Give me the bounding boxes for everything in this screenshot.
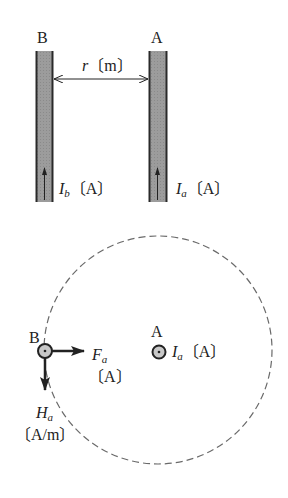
conductor-b-out-of-page-icon: [38, 344, 52, 358]
conductor-a: [149, 51, 167, 202]
conductor-b: [36, 51, 53, 202]
point-b-label: B: [29, 329, 40, 346]
magnetic-field-figure: A Ia〔A〕 Fa 〔A〕 Ha 〔A/m〕 B: [15, 236, 272, 464]
conductor-a-out-of-page-icon: [153, 346, 166, 359]
distance-unit: 〔m〕: [88, 57, 132, 74]
field-unit: 〔A/m〕: [15, 426, 75, 443]
current-a-bottom-label: Ia〔A〕: [171, 343, 226, 362]
current-b-label: Ib〔A〕: [58, 180, 113, 199]
diagram-canvas: B A r〔m〕 Ib〔A〕 Ia〔A〕 A Ia〔A〕 Fa 〔A〕: [0, 0, 288, 498]
field-label: Ha: [35, 404, 54, 423]
point-a-label: A: [151, 323, 163, 340]
parallel-conductors-figure: B A r〔m〕 Ib〔A〕 Ia〔A〕: [36, 29, 230, 202]
force-unit: 〔A〕: [88, 368, 132, 385]
conductor-a-label: A: [151, 29, 163, 46]
distance-label: r〔m〕: [82, 57, 133, 74]
force-label: Fa: [91, 346, 108, 365]
current-a-label: Ia〔A〕: [175, 180, 230, 199]
conductor-b-label: B: [37, 29, 48, 46]
